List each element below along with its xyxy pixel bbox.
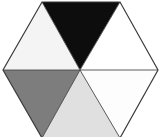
figure-canvas [0,0,162,137]
hexagon-diagram [0,0,162,137]
